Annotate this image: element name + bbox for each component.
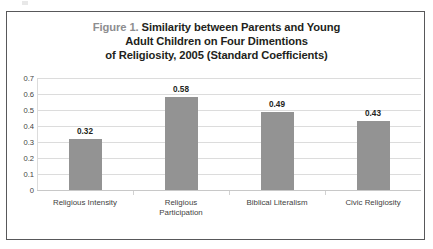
x-axis-tick-mark (133, 191, 134, 195)
y-axis-tick-label: 0.7 (11, 74, 34, 83)
bar-chart: 0.70.60.50.40.30.20.10 0.320.580.490.43 … (7, 12, 426, 241)
x-axis-tick-label: Biblical Literalism (229, 198, 325, 208)
scan-artifact-speck (22, 1, 28, 5)
x-axis-tick-label-line: Biblical Literalism (229, 198, 325, 208)
gridline (37, 94, 421, 95)
gridline (37, 78, 421, 79)
y-axis-tick-label: 0.2 (11, 154, 34, 163)
x-axis-tick-label-line: Participation (133, 208, 229, 218)
x-axis-tick-label: Civic Religiosity (325, 198, 421, 208)
y-axis-tick-label: 0.1 (11, 170, 34, 179)
y-axis-tick-label: 0.3 (11, 138, 34, 147)
bar (261, 112, 294, 190)
bar (69, 139, 102, 190)
y-axis-tick-label: 0 (11, 186, 34, 195)
y-axis-tick-label: 0.4 (11, 122, 34, 131)
x-axis-tick-mark (229, 191, 230, 195)
bar (165, 97, 198, 190)
x-axis-tick-label: ReligiousParticipation (133, 198, 229, 218)
x-axis-tick-label: Religious Intensity (37, 198, 133, 208)
x-axis-tick-label-line: Religious Intensity (37, 198, 133, 208)
y-axis-tick-label: 0.5 (11, 106, 34, 115)
y-axis-tick-label: 0.6 (11, 90, 34, 99)
bar-value-label: 0.32 (65, 127, 105, 136)
x-axis-tick-label-line: Civic Religiosity (325, 198, 421, 208)
bar (357, 121, 390, 190)
plot-area: 0.320.580.490.43 (37, 78, 421, 190)
x-axis-tick-label-line: Religious (133, 198, 229, 208)
bar-value-label: 0.49 (257, 100, 297, 109)
bar-value-label: 0.58 (161, 85, 201, 94)
x-axis-tick-labels: Religious IntensityReligiousParticipatio… (37, 198, 421, 238)
y-axis-tick-labels: 0.70.60.50.40.30.20.10 (11, 12, 34, 241)
x-axis-tick-mark (325, 191, 326, 195)
figure-frame: Figure 1. Similarity between Parents and… (6, 11, 425, 240)
bar-value-label: 0.43 (353, 109, 393, 118)
